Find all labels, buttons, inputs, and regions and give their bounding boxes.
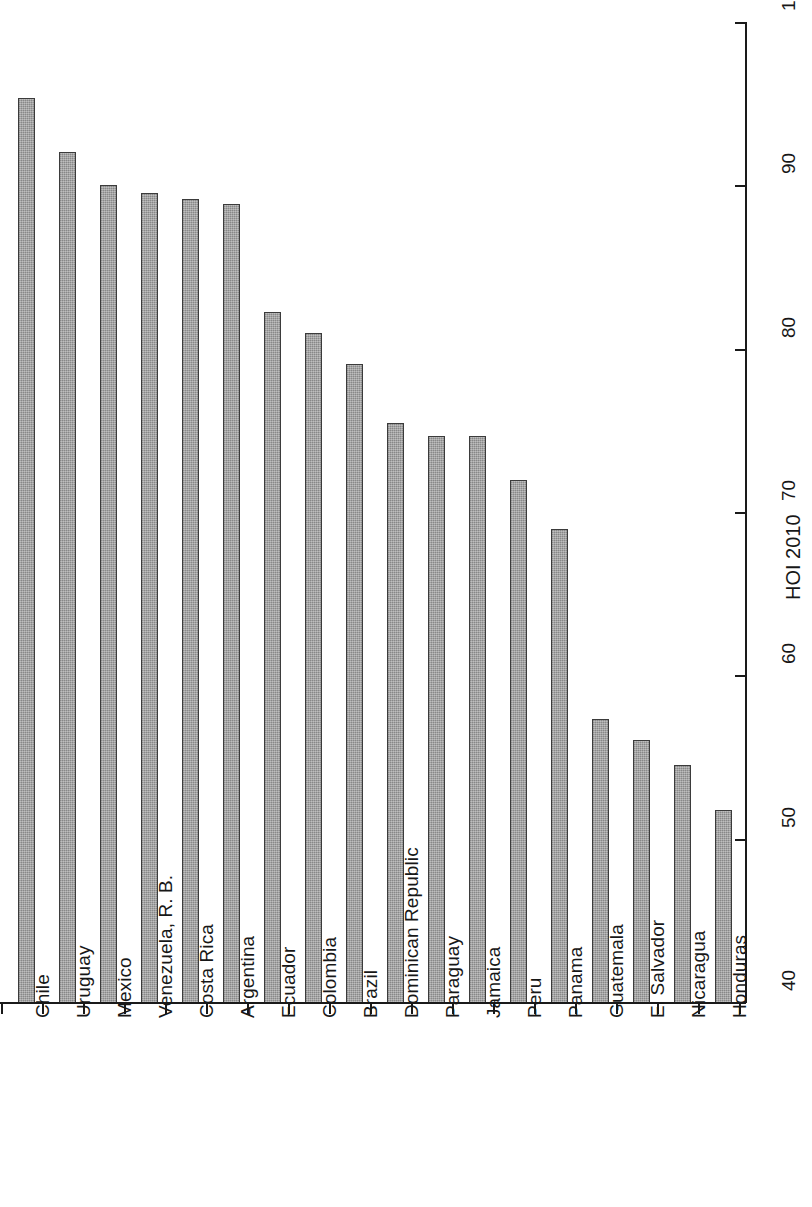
category-label: Argentina <box>210 1018 251 1038</box>
category-label-text: El Salvador <box>648 920 668 1018</box>
bar-nicaragua <box>661 0 702 1003</box>
category-label-text: Dominican Republic <box>402 847 422 1018</box>
value-tick-label-text: 100 <box>778 0 800 11</box>
bar-costa-rica <box>169 0 210 1003</box>
category-label-text: Chile <box>33 974 53 1018</box>
value-tick-label-text: 90 <box>778 153 800 174</box>
bar-peru <box>497 0 538 1003</box>
category-label: Mexico <box>87 1018 128 1038</box>
value-tick <box>735 839 746 841</box>
category-label-text: Nicaragua <box>689 930 709 1018</box>
category-label: Colombia <box>292 1018 333 1038</box>
value-tick-label: 80 <box>752 338 792 360</box>
category-label: Chile <box>5 1018 46 1038</box>
category-label: Ecuador <box>251 1018 292 1038</box>
bar-uruguay <box>46 0 87 1003</box>
value-tick <box>735 512 746 514</box>
value-tick-label: 40 <box>752 991 792 1013</box>
category-label-text: Peru <box>525 977 545 1018</box>
category-label-text: Venezuela, R. B. <box>156 875 176 1018</box>
value-tick-label-text: 60 <box>778 643 800 664</box>
category-label: Paraguay <box>415 1018 456 1038</box>
value-axis-title: HOI 2010 <box>778 490 808 610</box>
bar-jamaica <box>456 0 497 1003</box>
bar-mexico <box>87 0 128 1003</box>
category-label-text: Brazil <box>361 970 381 1018</box>
category-label: Peru <box>497 1018 538 1038</box>
bar-guatemala <box>579 0 620 1003</box>
value-tick <box>735 185 746 187</box>
category-label: Panama <box>538 1018 579 1038</box>
category-label: Honduras <box>702 1018 743 1038</box>
category-label-text: Mexico <box>115 957 135 1018</box>
category-label-text: Jamaica <box>484 947 504 1018</box>
bar-panama <box>538 0 579 1003</box>
bar-rect <box>264 312 281 1003</box>
bar-argentina <box>210 0 251 1003</box>
bar-rect <box>346 364 363 1003</box>
category-label-text: Costa Rica <box>197 924 217 1018</box>
value-tick <box>735 1002 746 1004</box>
category-label: Venezuela, R. B. <box>128 1018 169 1038</box>
category-tick <box>1 1003 3 1014</box>
value-axis-top-cap <box>735 22 746 24</box>
bar-venezuela-r-b <box>128 0 169 1003</box>
category-label-text: Paraguay <box>443 936 463 1018</box>
category-label: Brazil <box>333 1018 374 1038</box>
category-label-text: Guatemala <box>607 924 627 1018</box>
category-label: Guatemala <box>579 1018 620 1038</box>
category-label-text: Argentina <box>238 936 258 1018</box>
category-label: Jamaica <box>456 1018 497 1038</box>
value-tick <box>735 349 746 351</box>
bar-colombia <box>292 0 333 1003</box>
bar-rect <box>182 199 199 1003</box>
bar-chart: ChileUruguayMexicoVenezuela, R. B.Costa … <box>0 0 812 1207</box>
bar-rect <box>551 529 568 1003</box>
bar-el-salvador <box>620 0 661 1003</box>
value-tick-label: 50 <box>752 828 792 850</box>
value-tick-label: 100 <box>752 11 792 33</box>
category-label: Dominican Republic <box>374 1018 415 1038</box>
bar-brazil <box>333 0 374 1003</box>
bar-rect <box>18 98 35 1003</box>
bar-rect <box>100 185 117 1003</box>
bar-rect <box>305 333 322 1003</box>
category-label-text: Honduras <box>730 935 750 1018</box>
value-tick-label: 90 <box>752 174 792 196</box>
bar-rect <box>510 480 527 1003</box>
value-tick-label-text: 50 <box>778 807 800 828</box>
bar-rect <box>469 436 486 1003</box>
category-label: Nicaragua <box>661 1018 702 1038</box>
plot-area <box>0 0 740 1003</box>
value-axis-title-text: HOI 2010 <box>782 514 805 600</box>
category-label-text: Panama <box>566 947 586 1018</box>
category-label: El Salvador <box>620 1018 661 1038</box>
bar-chile <box>5 0 46 1003</box>
value-tick-label-text: 40 <box>778 970 800 991</box>
value-tick-label-text: 80 <box>778 317 800 338</box>
bar-ecuador <box>251 0 292 1003</box>
bar-rect <box>59 152 76 1003</box>
category-label: Costa Rica <box>169 1018 210 1038</box>
category-label-text: Uruguay <box>74 945 94 1018</box>
value-tick-label: 60 <box>752 664 792 686</box>
bar-rect <box>428 436 445 1003</box>
category-label-text: Colombia <box>320 937 340 1018</box>
bar-rect <box>223 204 240 1003</box>
bar-honduras <box>702 0 743 1003</box>
category-label-text: Ecuador <box>279 947 299 1018</box>
category-label: Uruguay <box>46 1018 87 1038</box>
value-tick <box>735 675 746 677</box>
